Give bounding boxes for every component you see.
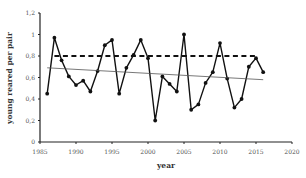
data-point-marker	[45, 92, 49, 96]
data-point-marker	[139, 38, 143, 42]
x-tick-label: 2020	[284, 148, 299, 155]
y-tick-label: 0,6	[25, 74, 35, 81]
data-point-marker	[189, 108, 193, 112]
axes: 00,20,40,60,811,219851990199520002005201…	[25, 9, 299, 155]
trend-line	[47, 68, 263, 80]
x-tick-label: 1985	[32, 148, 47, 155]
data-point-marker	[67, 75, 71, 79]
data-point-marker	[74, 83, 78, 87]
data-point-marker	[218, 41, 222, 45]
data-line	[47, 35, 263, 121]
data-point-marker	[197, 102, 201, 106]
data-point-marker	[53, 36, 57, 40]
y-tick-label: 1	[31, 31, 35, 38]
data-point-marker	[240, 97, 244, 101]
y-tick-label: 0,4	[25, 95, 35, 102]
data-point-marker	[89, 90, 93, 94]
data-point-marker	[125, 66, 129, 70]
x-tick-label: 2000	[140, 148, 155, 155]
y-tick-label: 0	[31, 138, 35, 145]
x-axis-title: year	[156, 161, 176, 170]
data-point-marker	[175, 90, 179, 94]
data-point-marker	[103, 43, 107, 47]
x-tick-label: 2005	[176, 148, 191, 155]
y-tick-label: 0,2	[25, 117, 35, 124]
data-point-marker	[204, 81, 208, 85]
plot-area	[45, 33, 265, 123]
data-point-marker	[161, 75, 165, 79]
data-point-marker	[81, 79, 85, 83]
data-point-marker	[117, 92, 121, 96]
y-tick-label: 1,2	[25, 9, 35, 16]
x-tick-label: 1990	[68, 148, 83, 155]
data-point-marker	[211, 70, 215, 74]
data-point-marker	[153, 119, 157, 123]
data-point-marker	[233, 106, 237, 110]
x-tick-label: 2015	[248, 148, 263, 155]
data-point-marker	[261, 70, 265, 74]
data-point-marker	[247, 65, 251, 69]
line-chart: 00,20,40,60,811,219851990199520002005201…	[0, 0, 306, 178]
x-tick-label: 2010	[212, 148, 227, 155]
y-axis-title: young reared per pair	[5, 31, 14, 125]
data-point-marker	[182, 33, 186, 37]
data-point-marker	[60, 58, 64, 62]
data-point-marker	[110, 38, 114, 42]
data-point-marker	[168, 82, 172, 86]
y-tick-label: 0,8	[25, 52, 35, 59]
x-tick-label: 1995	[104, 148, 119, 155]
